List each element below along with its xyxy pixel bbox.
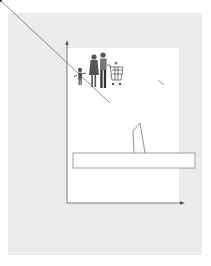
y-axis-arrow-icon xyxy=(65,40,68,45)
plot-area xyxy=(67,48,179,203)
chart-svg xyxy=(0,0,211,266)
x-axis-arrow-icon xyxy=(180,201,185,204)
